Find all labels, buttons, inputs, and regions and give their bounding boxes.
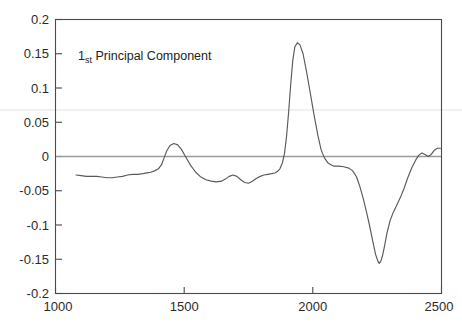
y-tick-label: 0 (42, 149, 49, 164)
y-axis-tick-labels: 0.2 0.15 0.1 0.05 0 -0.05 -0.1 -0.15 -0.… (19, 12, 49, 301)
y-tick-label: 0.15 (24, 46, 49, 61)
annotation-prefix: 1 (78, 49, 85, 63)
y-tick-label: 0.1 (31, 81, 49, 96)
y-tick-label: 0.2 (31, 12, 49, 27)
y-tick-label: -0.15 (19, 252, 49, 267)
y-tick-label: 0.05 (24, 115, 49, 130)
principal-component-chart: 0.2 0.15 0.1 0.05 0 -0.05 -0.1 -0.15 -0.… (0, 0, 462, 322)
page-caption (0, 308, 462, 322)
pc1-loading-line (76, 43, 440, 264)
chart-annotation-label: 1st Principal Component (78, 49, 212, 65)
y-tick-label: -0.1 (27, 218, 49, 233)
y-tick-label: -0.05 (19, 183, 49, 198)
x-tick-marks (56, 287, 442, 294)
figure-container: 0.2 0.15 0.1 0.05 0 -0.05 -0.1 -0.15 -0.… (0, 0, 462, 322)
annotation-text: Principal Component (92, 49, 212, 63)
